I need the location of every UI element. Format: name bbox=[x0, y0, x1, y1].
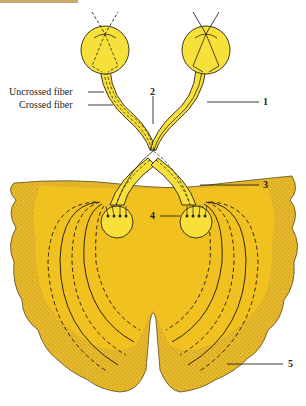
brain-section bbox=[10, 176, 297, 392]
right-eye bbox=[182, 12, 230, 74]
label-1-optic-nerve: 1 bbox=[263, 97, 268, 107]
label-uncrossed-fiber: Uncrossed fiber bbox=[9, 87, 73, 97]
label-2-optic-chiasm: 2 bbox=[150, 87, 155, 97]
left-eye bbox=[81, 12, 129, 74]
label-3-optic-tract: 3 bbox=[263, 180, 268, 190]
label-4-lateral-geniculate: 4 bbox=[150, 211, 155, 221]
visual-pathway-diagram bbox=[0, 0, 306, 406]
label-crossed-fiber: Crossed fiber bbox=[19, 100, 73, 110]
label-5-visual-cortex: 5 bbox=[288, 359, 293, 369]
